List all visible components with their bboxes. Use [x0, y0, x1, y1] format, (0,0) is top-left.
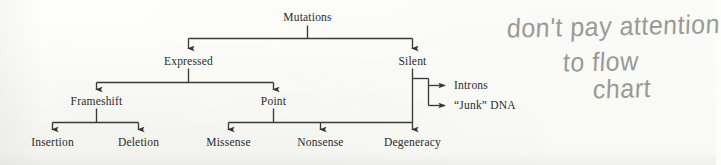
node-insertion: Insertion — [31, 136, 74, 148]
node-introns: Introns — [454, 79, 488, 91]
node-silent: Silent — [398, 55, 427, 67]
handwritten-note-line-1: don't pay attention — [506, 11, 720, 42]
node-missense: Missense — [206, 136, 250, 148]
edge-group-silent — [413, 69, 445, 123]
node-frameshift: Frameshift — [71, 95, 123, 107]
node-expressed: Expressed — [164, 55, 213, 68]
edge-group-frameshift — [53, 109, 139, 130]
node-mutations: Mutations — [283, 11, 332, 23]
node-point: Point — [261, 95, 287, 107]
node-degeneracy: Degeneracy — [384, 136, 441, 149]
handwritten-note-line-3: chart — [592, 75, 651, 103]
node-junk-dna: “Junk” DNA — [454, 99, 516, 111]
edge-group-point — [229, 109, 413, 130]
node-nonsense: Nonsense — [297, 136, 343, 148]
edge-group-mutations — [189, 26, 413, 49]
node-deletion: Deletion — [118, 136, 159, 148]
edge-group-expressed — [97, 69, 274, 90]
handwritten-note-line-2: to flow — [562, 48, 639, 76]
